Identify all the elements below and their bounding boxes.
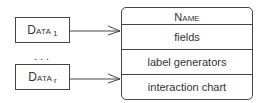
entity-title: Name [122,8,252,24]
entity-row-label-generators: label generators [122,49,252,74]
entity-box: Name fields label generators interaction… [121,7,253,100]
entity-row-interaction-chart: interaction chart [122,74,252,99]
entity-row-fields: fields [122,24,252,49]
